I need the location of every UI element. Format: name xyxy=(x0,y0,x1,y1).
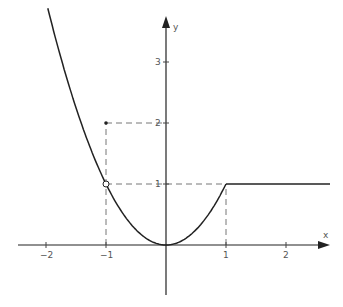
x-tick-label: −1 xyxy=(100,250,113,260)
open-circle-point xyxy=(103,181,109,187)
y-tick-label: 2 xyxy=(155,118,161,128)
y-axis-arrow-icon xyxy=(162,16,170,28)
parabola-curve xyxy=(48,8,226,245)
x-tick-label: 1 xyxy=(223,250,229,260)
x-axis-label: x xyxy=(323,230,329,240)
x-tick-label: 2 xyxy=(283,250,289,260)
x-axis-arrow-icon xyxy=(318,241,330,249)
y-tick-label: 1 xyxy=(155,179,161,189)
filled-dot-point xyxy=(104,121,108,125)
x-tick-label: −2 xyxy=(40,250,53,260)
y-axis-label: y xyxy=(173,22,179,32)
function-graph: −2 −1 1 2 1 2 3 x y xyxy=(0,0,343,307)
y-tick-label: 3 xyxy=(155,57,161,67)
